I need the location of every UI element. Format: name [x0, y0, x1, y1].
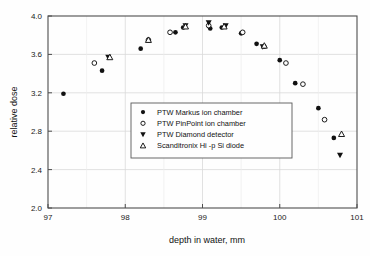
x-tick-label: 99 — [198, 213, 207, 222]
data-point — [254, 41, 259, 46]
legend-label-2: PTW Diamond detector — [157, 130, 234, 139]
filled-circle-marker — [293, 81, 298, 86]
filled-circle-marker — [138, 46, 143, 51]
open-circle-marker — [240, 30, 245, 35]
y-tick-label: 2.4 — [31, 166, 43, 175]
x-tick-label: 101 — [350, 213, 364, 222]
data-point — [168, 30, 173, 35]
y-tick-label: 3.6 — [31, 50, 43, 59]
x-tick-label: 97 — [44, 213, 53, 222]
data-point — [293, 81, 298, 86]
legend-label-0: PTW Markus ion chamber — [157, 108, 243, 117]
data-point — [100, 68, 105, 73]
x-tick-label: 100 — [273, 213, 287, 222]
filled-circle-marker — [61, 91, 66, 96]
y-axis-title: relative dose — [9, 86, 19, 137]
data-point — [316, 106, 321, 111]
data-point — [61, 91, 66, 96]
y-tick-label: 4.0 — [31, 12, 43, 21]
filled-circle-marker — [173, 30, 178, 35]
data-point — [138, 46, 143, 51]
data-point — [173, 30, 178, 35]
x-tick-label: 98 — [121, 213, 130, 222]
data-point — [277, 58, 282, 63]
filled-circle-marker — [141, 110, 145, 114]
filled-circle-marker — [316, 106, 321, 111]
legend-label-1: PTW PinPoint ion chamber — [157, 119, 246, 128]
filled-circle-marker — [100, 68, 105, 73]
data-point — [240, 30, 245, 35]
y-tick-label: 2.8 — [31, 127, 43, 136]
data-point — [301, 82, 306, 87]
open-circle-marker — [284, 61, 289, 66]
filled-circle-marker — [277, 58, 282, 63]
y-tick-label: 3.2 — [31, 89, 43, 98]
chart-legend: PTW Markus ion chamberPTW PinPoint ion c… — [131, 103, 292, 158]
y-tick-label: 2.0 — [31, 204, 43, 213]
data-point — [331, 136, 336, 141]
data-point — [92, 61, 97, 66]
legend-marker-0 — [141, 110, 145, 114]
figure-container: 979899100101 2.02.42.83.23.64.0 PTW Mark… — [0, 0, 370, 256]
open-circle-marker — [301, 82, 306, 87]
open-circle-marker — [92, 61, 97, 66]
legend-marker-1 — [141, 121, 145, 125]
open-circle-marker — [322, 117, 327, 122]
filled-circle-marker — [254, 41, 259, 46]
open-circle-marker — [168, 30, 173, 35]
filled-circle-marker — [331, 136, 336, 141]
data-point — [284, 61, 289, 66]
dose-depth-scatter-chart: 979899100101 2.02.42.83.23.64.0 PTW Mark… — [0, 0, 370, 256]
data-point — [322, 117, 327, 122]
open-circle-marker — [141, 121, 145, 125]
legend-label-3: Scanditronix Hi -p Si diode — [157, 141, 244, 150]
x-axis-title: depth in water, mm — [169, 235, 245, 245]
